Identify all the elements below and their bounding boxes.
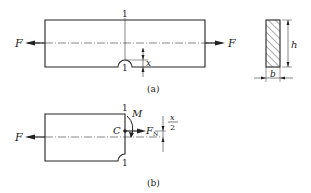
height-label: h <box>291 39 297 50</box>
dimension-denominator: 2 <box>170 123 175 132</box>
section-label-bottom: 1 <box>122 63 128 73</box>
width-label: b <box>270 69 276 79</box>
dimension-x <box>125 48 148 77</box>
caption-b: (b) <box>147 178 160 188</box>
normal-force-arrow <box>125 129 146 134</box>
caption-a: (a) <box>147 84 159 94</box>
section-label-top: 1 <box>122 9 128 19</box>
force-arrow-left <box>25 41 45 46</box>
cross-section-rect <box>266 20 280 67</box>
moment-label: M <box>131 108 143 119</box>
figure-b: F 1 1 C FN M x 2 (b) <box>14 103 178 188</box>
free-body-outline <box>45 114 125 161</box>
force-label-left: F <box>14 37 23 50</box>
force-label-b: F <box>14 131 23 144</box>
cross-section: h b <box>254 20 297 82</box>
dimension-numerator: x <box>170 113 175 122</box>
force-arrow-left-b <box>25 135 45 140</box>
dimension-x-label: x <box>146 58 151 68</box>
force-label-right: F <box>227 37 236 50</box>
dimension-x-half <box>155 116 178 152</box>
centroid-label: C <box>113 125 121 136</box>
section-label-top-b: 1 <box>122 103 128 113</box>
figure-a: F F 1 1 x (a) <box>14 9 236 94</box>
diagram-canvas: F F 1 1 x (a) h b <box>0 0 311 193</box>
section-label-bottom-b: 1 <box>122 158 128 168</box>
force-arrow-right <box>205 41 225 46</box>
